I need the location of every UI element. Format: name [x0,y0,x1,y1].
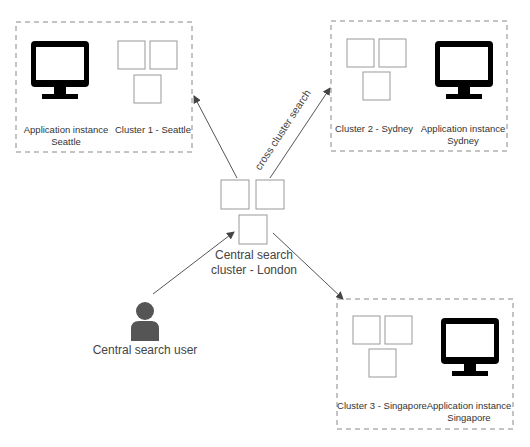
monitor-icon [441,318,499,376]
app-label-seattle: Application instance Seattle [18,124,114,148]
monitor-icon [435,41,493,99]
app-label-singapore: Application instance Singapore [423,400,515,424]
central-cluster-label: Central search cluster - London [200,248,308,278]
app-label-line1: Application instance [423,400,515,412]
app-label-line2: Singapore [423,412,515,424]
app-label-line1: Application instance [415,123,511,135]
central-label-line2: cluster - London [200,263,308,278]
central-label-line1: Central search [200,248,308,263]
user-label: Central search user [80,343,210,358]
diagram-canvas [0,0,530,447]
cluster-nodes [118,41,177,103]
app-label-line1: Application instance [18,124,114,136]
user-icon [131,302,159,341]
cluster-nodes [347,39,406,100]
app-label-line2: Seattle [18,136,114,148]
cluster-label-singapore: Cluster 3 - Singapore [337,400,427,412]
arrow-to-seattle [194,96,237,178]
cluster-label-seattle: Cluster 1 - Seattle [113,124,193,136]
monitor-icon [31,41,89,99]
cluster-label-sydney: Cluster 2 - Sydney [333,123,415,135]
app-label-line2: Sydney [415,135,511,147]
app-label-sydney: Application instance Sydney [415,123,511,147]
cluster-nodes [353,316,412,377]
